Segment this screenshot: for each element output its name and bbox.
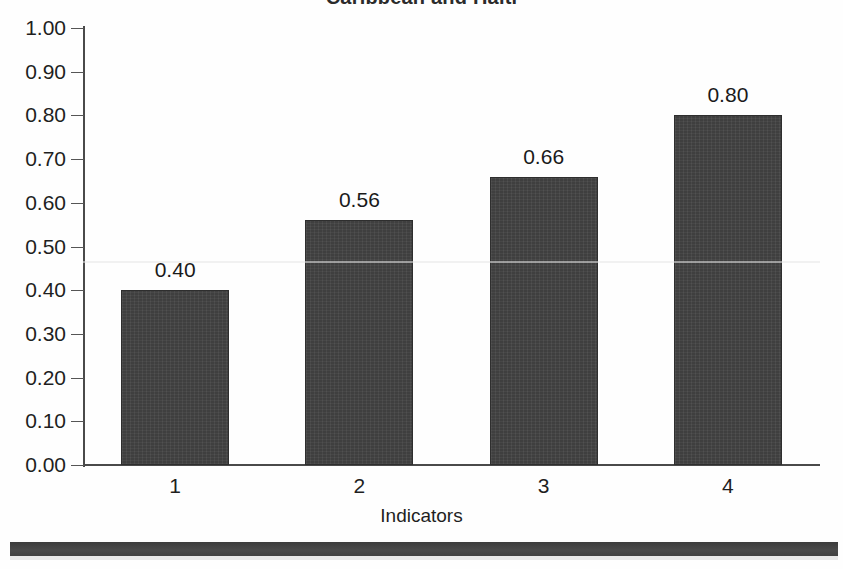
- bar-value-label: 0.40: [155, 258, 196, 282]
- y-axis-label: 0.20: [0, 366, 66, 390]
- chart-page: Caribbean and Haiti Indicators 1.000.900…: [0, 0, 843, 569]
- y-axis-label: 0.80: [0, 103, 66, 127]
- x-axis-label: 4: [722, 474, 734, 498]
- y-axis-tick: [71, 115, 84, 116]
- x-axis-label: 2: [354, 474, 366, 498]
- y-axis-tick: [71, 72, 84, 73]
- bar-value-label: 0.66: [523, 145, 564, 169]
- y-axis-label: 0.60: [0, 191, 66, 215]
- y-axis-tick: [71, 247, 84, 248]
- bar[interactable]: [305, 220, 413, 465]
- bar-value-label: 0.56: [339, 188, 380, 212]
- bar-value-label: 0.80: [707, 83, 748, 107]
- y-axis-label: 0.50: [0, 235, 66, 259]
- x-axis-label: 3: [538, 474, 550, 498]
- y-axis-label: 0.10: [0, 409, 66, 433]
- y-axis-tick: [71, 465, 84, 466]
- y-axis-tick: [71, 334, 84, 335]
- chart-title: Caribbean and Haiti: [0, 0, 843, 9]
- y-axis-tick: [71, 290, 84, 291]
- y-axis-tick: [71, 378, 84, 379]
- y-axis-label: 0.90: [0, 60, 66, 84]
- y-axis-label: 0.40: [0, 278, 66, 302]
- y-axis-label: 0.00: [0, 453, 66, 477]
- page-edge-shadow: [10, 556, 838, 560]
- bar[interactable]: [674, 115, 782, 465]
- y-axis-label: 1.00: [0, 16, 66, 40]
- y-axis-tick: [71, 159, 84, 160]
- x-axis-title: Indicators: [0, 505, 843, 527]
- page-edge-band: [10, 542, 838, 556]
- bar[interactable]: [121, 290, 229, 465]
- x-axis-label: 1: [169, 474, 181, 498]
- y-axis-tick: [71, 203, 84, 204]
- y-axis-label: 0.70: [0, 147, 66, 171]
- y-axis-tick: [71, 421, 84, 422]
- y-axis-label: 0.30: [0, 322, 66, 346]
- bar[interactable]: [490, 177, 598, 465]
- y-axis-tick: [71, 28, 84, 29]
